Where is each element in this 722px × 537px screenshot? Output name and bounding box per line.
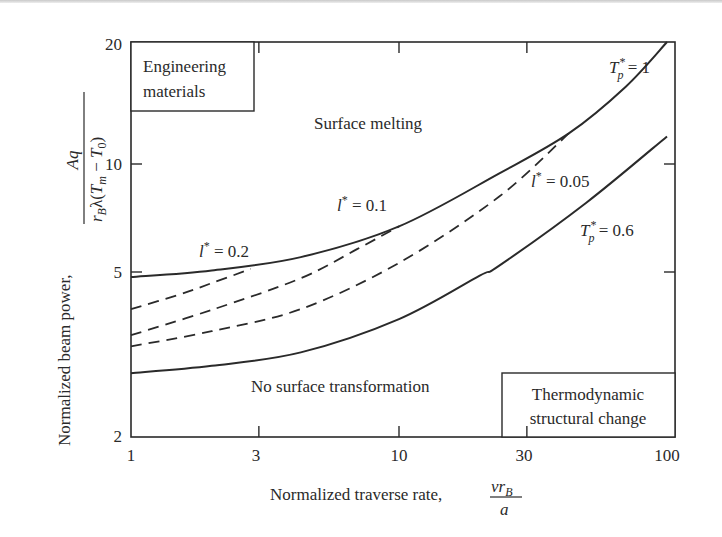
l01-label: l* = 0.1	[337, 193, 387, 215]
x-axis-fraction-num: vrB	[491, 477, 513, 499]
tp1-label: T*p = 1	[609, 55, 650, 82]
surface-melting-label: Surface melting	[314, 114, 423, 133]
y-axis-fraction-den: rBλ(Tm − T0)	[87, 137, 109, 222]
y-axis-fraction: Aq rBλ(Tm − T0)	[63, 92, 109, 224]
engineering-label-2: materials	[143, 82, 205, 101]
ytick-10: 10	[105, 155, 122, 174]
x-axis-fraction-den: a	[500, 500, 509, 519]
x-axis-title: Normalized traverse rate,	[270, 485, 442, 504]
y-axis-title-group: Normalized beam power,	[55, 274, 74, 446]
no-transformation-label: No surface transformation	[251, 377, 430, 396]
chart: 20 10 5 2 1 3 10 30 100 Engineering mate…	[0, 0, 722, 537]
ytick-5: 5	[114, 263, 123, 282]
y-axis-fraction-num: Aq	[63, 150, 82, 170]
xtick-3: 3	[252, 446, 261, 465]
tp06-label: T*p = 0.6	[580, 218, 634, 245]
xtick-100: 100	[654, 446, 680, 465]
ytick-20: 20	[105, 35, 122, 54]
curve-l-0-05	[131, 133, 569, 346]
y-axis-title: Normalized beam power,	[55, 274, 74, 446]
l005-label: l* = 0.05	[531, 169, 590, 191]
l02-label: l* = 0.2	[199, 239, 249, 261]
xtick-10: 10	[391, 446, 408, 465]
xtick-1: 1	[127, 446, 136, 465]
ytick-2: 2	[114, 427, 123, 446]
thermodynamic-label-1: Thermodynamic	[532, 385, 645, 404]
thermodynamic-label-2: structural change	[530, 409, 647, 428]
xtick-30: 30	[516, 446, 533, 465]
engineering-label-1: Engineering	[143, 57, 227, 76]
